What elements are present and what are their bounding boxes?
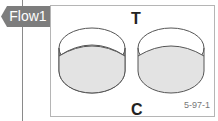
rings-illustration bbox=[51, 6, 216, 118]
left-ring-icon bbox=[59, 28, 125, 93]
right-ring-icon bbox=[138, 28, 204, 93]
figure-frame: T C 5-97-1 bbox=[50, 5, 215, 117]
flow-tab-label: Flow1 bbox=[1, 6, 51, 27]
